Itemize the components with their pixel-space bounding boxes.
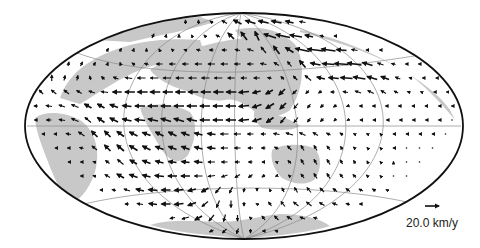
velocity-arrow-icon bbox=[367, 148, 368, 149]
velocity-dot bbox=[393, 175, 395, 177]
velocity-dot bbox=[445, 133, 447, 135]
velocity-arrow-icon bbox=[175, 190, 184, 191]
velocity-arrow-icon bbox=[149, 190, 158, 191]
velocity-arrow-icon bbox=[380, 148, 381, 149]
scale-label: 20.0 km/y bbox=[406, 216, 458, 230]
velocity-arrow-icon bbox=[329, 78, 339, 79]
velocity-arrow-icon bbox=[182, 162, 190, 163]
velocity-arrow-icon bbox=[175, 204, 184, 205]
velocity-arrow-icon bbox=[380, 134, 381, 135]
velocity-arrow-icon bbox=[155, 176, 164, 177]
velocity-arrow-icon bbox=[380, 176, 381, 177]
velocity-dot bbox=[419, 147, 421, 149]
velocity-dot bbox=[406, 147, 408, 149]
scale-legend-box: 20.0 km/y bbox=[398, 198, 468, 238]
velocity-arrow-icon bbox=[239, 106, 249, 107]
velocity-arrow-icon bbox=[149, 204, 157, 205]
velocity-arrow-icon bbox=[169, 162, 177, 163]
velocity-dot bbox=[406, 161, 408, 163]
velocity-arrow-icon bbox=[380, 162, 381, 163]
velocity-arrow-icon bbox=[337, 50, 347, 51]
velocity-arrow-icon bbox=[123, 106, 132, 107]
velocity-arrow-icon bbox=[335, 64, 349, 65]
velocity-arrow-icon bbox=[239, 120, 249, 121]
velocity-arrow-icon bbox=[208, 148, 216, 149]
velocity-arrow-icon bbox=[323, 64, 335, 65]
velocity-dot bbox=[419, 161, 421, 163]
velocity-arrow-icon bbox=[135, 120, 145, 121]
velocity-arrow-icon bbox=[239, 92, 249, 93]
velocity-dot bbox=[451, 119, 453, 121]
velocity-arrow-icon bbox=[341, 78, 353, 79]
velocity-dot bbox=[406, 175, 408, 177]
velocity-arrow-icon bbox=[208, 134, 216, 135]
velocity-dot bbox=[432, 147, 434, 149]
velocity-arrow-icon bbox=[195, 162, 203, 163]
